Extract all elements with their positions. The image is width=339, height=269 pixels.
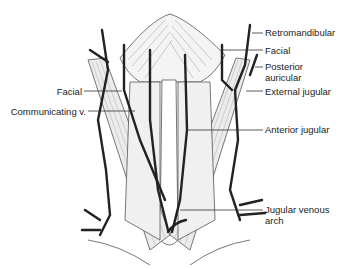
label-communicating-v: Communicating v. — [11, 106, 86, 117]
label-retromandibular: Retromandibular — [265, 27, 335, 38]
label-facial-right: Facial — [265, 45, 290, 56]
label-facial-left: Facial — [57, 86, 82, 97]
label-anterior-jugular: Anterior jugular — [265, 124, 329, 135]
label-external-jugular: External jugular — [265, 86, 331, 97]
label-jugular-venous-arch: Jugular venous arch — [265, 204, 329, 226]
label-posterior-auricular: Posterior auricular — [265, 61, 303, 83]
neck-outline — [88, 14, 250, 265]
